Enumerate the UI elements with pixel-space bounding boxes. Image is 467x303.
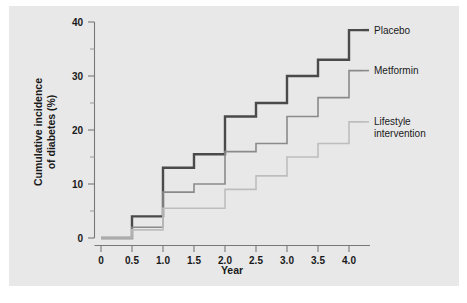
x-tick-label-2.5: 2.5 [249, 255, 263, 266]
series-label-lifestyle-line-2: intervention [374, 128, 426, 139]
step-chart: 010203040 00.51.01.52.02.53.03.54.0 Plac… [0, 0, 467, 303]
series-leader-lines [363, 30, 369, 122]
series-line-placebo [101, 30, 363, 238]
series-label-placebo: Placebo [374, 25, 411, 36]
x-tick-label-1.0: 1.0 [156, 255, 170, 266]
y-axis-title-line-2: of diabetes (%) [45, 95, 57, 170]
x-axis-ticks [101, 246, 349, 253]
y-tick-label-20: 20 [72, 125, 84, 136]
y-tick-label-0: 0 [77, 233, 83, 244]
series-labels: PlaceboMetforminLifestyleintervention [374, 25, 426, 139]
y-axis-title-line-1: Cumulative incidence [32, 78, 44, 186]
x-tick-label-0: 0 [98, 255, 104, 266]
figure-canvas: 010203040 00.51.01.52.02.53.03.54.0 Plac… [0, 0, 467, 303]
x-tick-label-1.5: 1.5 [187, 255, 201, 266]
series-step-lines [101, 30, 363, 238]
x-tick-label-4.0: 4.0 [342, 255, 356, 266]
series-label-lifestyle-line-1: Lifestyle [374, 116, 411, 127]
series-label-metformin: Metformin [374, 65, 418, 76]
x-tick-label-3.0: 3.0 [280, 255, 294, 266]
series-line-metformin [101, 71, 363, 238]
x-tick-label-0.5: 0.5 [125, 255, 139, 266]
x-tick-label-3.5: 3.5 [311, 255, 325, 266]
series-line-lifestyle [101, 122, 363, 238]
y-tick-label-10: 10 [72, 179, 84, 190]
y-axis-ticks [88, 22, 95, 238]
y-axis-tick-labels: 010203040 [72, 17, 84, 244]
y-tick-label-40: 40 [72, 17, 84, 28]
x-axis-title: Year [221, 264, 243, 276]
y-tick-label-30: 30 [72, 71, 84, 82]
